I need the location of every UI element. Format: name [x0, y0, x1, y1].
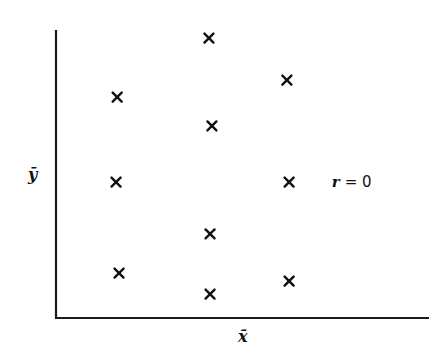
y-axis-label: ȳ [27, 165, 39, 184]
annotation-variable: r [332, 173, 341, 191]
data-point [115, 269, 124, 278]
data-point [285, 277, 294, 286]
data-point [112, 178, 121, 187]
data-point [282, 76, 291, 85]
data-point [206, 290, 215, 299]
data-points [112, 34, 294, 299]
data-point [207, 121, 216, 130]
data-point [285, 178, 294, 187]
data-point [204, 34, 213, 43]
correlation-annotation: r= 0 [332, 173, 372, 191]
scatter-chart: ȳ x̄ r= 0 [0, 0, 448, 358]
annotations: r= 0 [332, 173, 372, 191]
data-point [113, 93, 122, 102]
data-point [206, 229, 215, 238]
annotation-value: = 0 [345, 173, 372, 191]
x-axis-label: x̄ [237, 327, 248, 346]
